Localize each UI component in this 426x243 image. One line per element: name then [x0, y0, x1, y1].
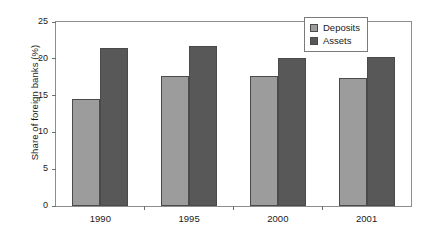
bar-deposits-2001	[339, 78, 367, 206]
y-tick-label: 5	[28, 163, 48, 173]
y-tick-mark	[52, 169, 56, 170]
bar-assets-2000	[278, 58, 306, 206]
legend-swatch-icon	[310, 37, 318, 45]
x-tick-mark	[322, 206, 323, 210]
plot-inner: 0510152025 1990199520002001 DepositsAsse…	[56, 22, 411, 206]
y-tick-mark	[52, 206, 56, 207]
y-tick-label: 0	[28, 200, 48, 210]
y-tick-mark	[52, 132, 56, 133]
legend-item-assets: Assets	[310, 34, 360, 47]
y-tick-label: 25	[28, 16, 48, 26]
x-tick-label: 1990	[74, 213, 126, 224]
bar-deposits-2000	[250, 76, 278, 206]
bar-chart: Share of foreign banks (%) 0510152025 19…	[0, 0, 426, 243]
y-tick-mark	[52, 22, 56, 23]
bar-deposits-1990	[72, 99, 100, 206]
x-tick-label: 2001	[341, 213, 393, 224]
legend-item-deposits: Deposits	[310, 21, 360, 34]
legend-label: Assets	[323, 35, 352, 46]
legend-label: Deposits	[323, 22, 360, 33]
bar-assets-2001	[367, 57, 395, 206]
y-tick-label: 20	[28, 53, 48, 63]
x-tick-label: 2000	[252, 213, 304, 224]
chart-legend: DepositsAssets	[304, 17, 368, 52]
x-tick-mark	[233, 206, 234, 210]
plot-area: 0510152025 1990199520002001 DepositsAsse…	[55, 21, 412, 207]
legend-swatch-icon	[310, 24, 318, 32]
x-tick-mark	[144, 206, 145, 210]
y-tick-label: 10	[28, 126, 48, 136]
y-tick-label: 15	[28, 90, 48, 100]
y-axis-title: Share of foreign banks (%)	[29, 18, 40, 188]
y-tick-mark	[52, 58, 56, 59]
bar-assets-1995	[189, 46, 217, 206]
x-tick-label: 1995	[163, 213, 215, 224]
y-tick-mark	[52, 95, 56, 96]
bar-assets-1990	[100, 48, 128, 206]
bar-deposits-1995	[161, 76, 189, 206]
